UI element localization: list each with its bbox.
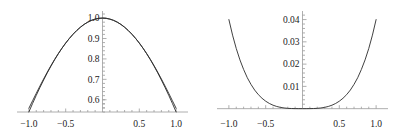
y-tick-label: 0.02 bbox=[283, 59, 300, 69]
x-tick-label-group: −1.0−0.50.51.0 bbox=[220, 119, 382, 129]
y-tick-label: 0.04 bbox=[283, 15, 300, 25]
y-tick-label: 0.9 bbox=[88, 34, 100, 44]
axes-group bbox=[217, 11, 388, 109]
x-tick-label: −0.5 bbox=[257, 119, 274, 129]
x-tick-label: 0.5 bbox=[133, 119, 145, 129]
y-tick-label: 0.03 bbox=[283, 37, 300, 47]
y-tick-label-group: 0.010.020.030.04 bbox=[283, 15, 300, 92]
x-tick-label: 1.0 bbox=[370, 119, 382, 129]
y-tick-label: 0.8 bbox=[88, 54, 100, 64]
x-tick-label-group: −1.0−0.50.51.0 bbox=[20, 119, 182, 129]
x-tick-label: −1.0 bbox=[20, 119, 37, 129]
y-tick-label: 0.01 bbox=[283, 82, 300, 92]
y-tick-label: 0.7 bbox=[88, 75, 100, 85]
y-tick-label: 0.6 bbox=[88, 95, 100, 105]
right-plot-panel: 0.010.020.030.04−1.0−0.50.51.0 bbox=[205, 0, 409, 138]
axes-group bbox=[17, 11, 188, 112]
x-tick-label: −0.5 bbox=[57, 119, 74, 129]
x-tick-label: −1.0 bbox=[220, 119, 237, 129]
x-tick-label: 1.0 bbox=[170, 119, 182, 129]
y-tick-label-group: 0.60.70.80.91.0 bbox=[88, 13, 100, 105]
right-plot-svg: 0.010.020.030.04−1.0−0.50.51.0 bbox=[205, 0, 409, 138]
x-tick-label: 0.5 bbox=[333, 119, 345, 129]
left-plot-svg: 0.60.70.80.91.0−1.0−0.50.51.0 bbox=[0, 0, 205, 138]
figure-container: 0.60.70.80.91.0−1.0−0.50.51.0 0.010.020.… bbox=[0, 0, 409, 138]
left-plot-panel: 0.60.70.80.91.0−1.0−0.50.51.0 bbox=[0, 0, 205, 138]
